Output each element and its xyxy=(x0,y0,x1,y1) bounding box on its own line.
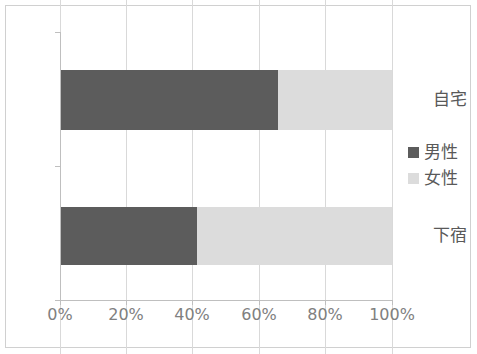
legend-swatch-female-icon xyxy=(408,173,419,184)
y-tick-top xyxy=(55,32,60,33)
x-axis-tick-label-40: 40% xyxy=(162,307,222,323)
x-axis-line xyxy=(60,300,393,301)
x-axis-tick-label-0: 0% xyxy=(30,307,90,323)
bar-segment-geshuku-male[interactable] xyxy=(61,207,197,265)
bar-row-jitaku xyxy=(61,70,392,130)
x-axis-tick-label-80: 80% xyxy=(295,307,355,323)
x-axis-tick-label-100: 100% xyxy=(362,307,422,323)
legend-label-male: 男性 xyxy=(424,144,458,161)
y-axis-label-jitaku: 自宅 xyxy=(423,91,477,108)
y-axis-label-geshuku: 下宿 xyxy=(423,227,477,244)
chart-border xyxy=(5,5,471,348)
x-axis-tick-label-60: 60% xyxy=(229,307,289,323)
legend-swatch-male-icon xyxy=(408,147,419,158)
bar-segment-geshuku-female[interactable] xyxy=(197,207,392,265)
x-axis-tick-label-20: 20% xyxy=(96,307,156,323)
legend-item-male[interactable]: 男性 xyxy=(408,139,458,165)
y-tick-bottom xyxy=(55,300,60,301)
legend: 男性 女性 xyxy=(408,139,458,191)
legend-label-female: 女性 xyxy=(424,170,458,187)
bar-segment-jitaku-female[interactable] xyxy=(278,70,392,130)
chart-container: 自宅 下宿 0% 20% 40% 60% 80% 100% 男性 女性 xyxy=(0,0,477,354)
y-tick-mid xyxy=(55,166,60,167)
bar-segment-jitaku-male[interactable] xyxy=(61,70,278,130)
bar-row-geshuku xyxy=(61,207,392,265)
legend-item-female[interactable]: 女性 xyxy=(408,165,458,191)
